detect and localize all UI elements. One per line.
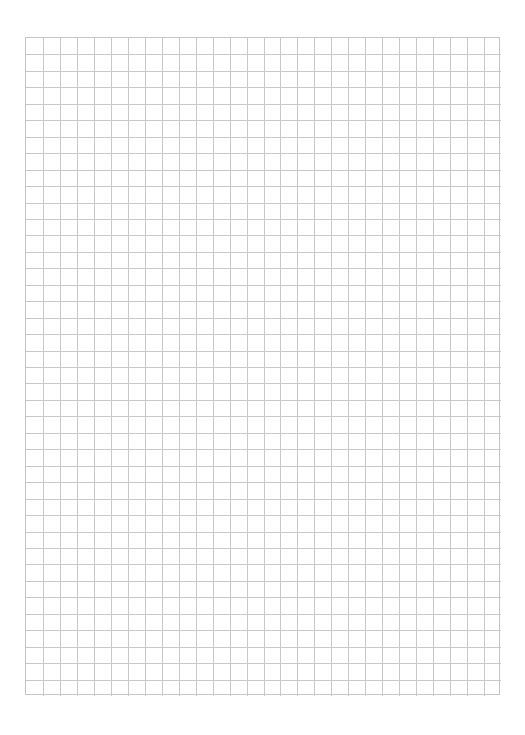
square-grid	[25, 37, 500, 695]
graph-paper-page	[0, 0, 525, 735]
grid-lines	[26, 38, 501, 696]
